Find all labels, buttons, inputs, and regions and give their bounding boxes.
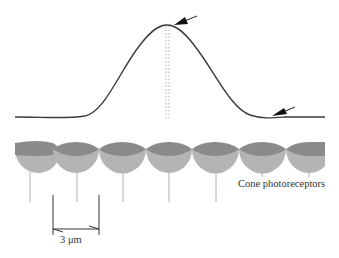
- center-dotted-line: [166, 26, 169, 118]
- intensity-curve: [15, 25, 325, 118]
- cone-3: [99, 142, 146, 202]
- diagram-canvas: [0, 0, 339, 258]
- cone-5: [192, 142, 239, 202]
- scale-bar-label: 3 μm: [60, 234, 82, 245]
- cone-photoreceptors-label: Cone photoreceptors: [238, 178, 325, 189]
- peak-arrow-icon: [174, 16, 197, 25]
- cone-2: [53, 142, 99, 202]
- cone-6: [239, 142, 286, 177]
- cone-mosaic: [15, 135, 339, 202]
- scale-bar: [53, 195, 99, 235]
- trough-arrow-icon: [272, 107, 295, 116]
- cone-4: [146, 142, 192, 202]
